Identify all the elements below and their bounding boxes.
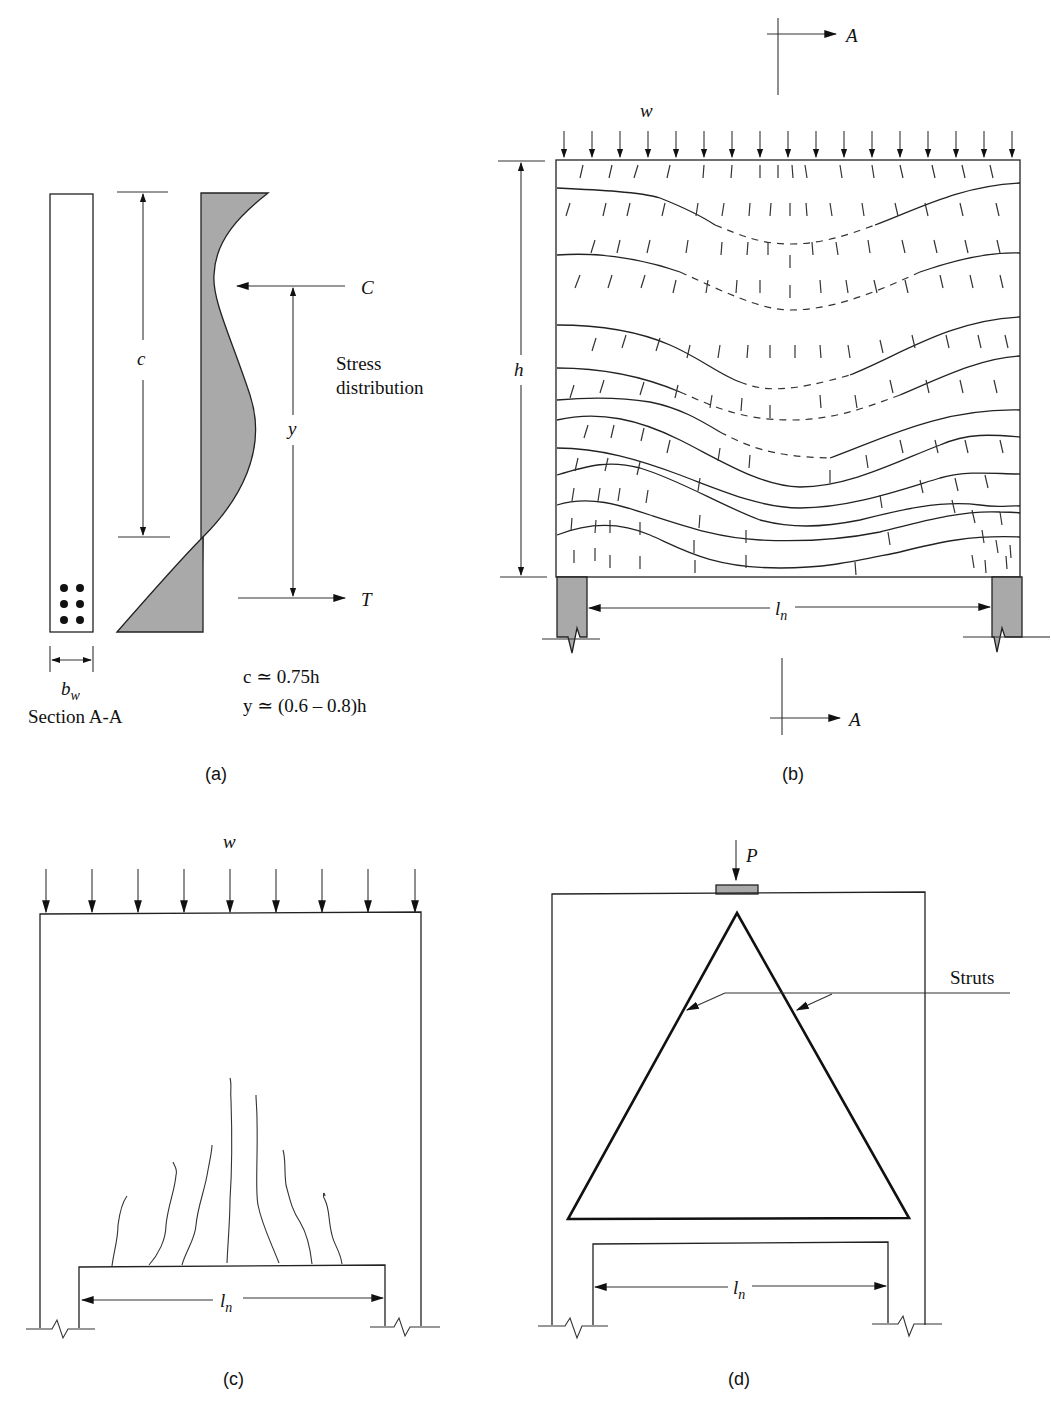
deep-beam-b: [556, 160, 1020, 577]
section-aa-label: Section A-A: [28, 706, 123, 727]
uniform-load-arrows-c: [46, 869, 415, 912]
load-p-label: P: [745, 845, 758, 866]
ln-label-d: ln: [733, 1277, 745, 1302]
stress-label-line1: Stress: [336, 353, 381, 374]
left-support-b: [557, 577, 587, 653]
section-web: [50, 194, 93, 632]
c-label: c: [137, 348, 146, 369]
struts-label: Struts: [950, 967, 994, 988]
deep-beam-figure: bw Section A-A c C T y Stress distributi…: [0, 0, 1051, 1410]
panel-d: P Struts ln (d): [538, 840, 1010, 1389]
tension-trajectories: [566, 165, 1011, 575]
caption-c: (c): [223, 1369, 244, 1389]
flexural-cracks: [112, 1078, 342, 1266]
panel-c: w ln (c: [26, 831, 440, 1389]
uniform-load-arrows-b: [564, 131, 1012, 157]
right-support-b: [992, 577, 1022, 652]
rebar-dots: [60, 584, 84, 624]
section-a-top-label: A: [844, 25, 858, 46]
stress-label-line2: distribution: [336, 377, 424, 398]
h-label: h: [514, 359, 524, 380]
force-t-label: T: [361, 589, 373, 610]
caption-d: (d): [728, 1369, 750, 1389]
bw-label: bw: [61, 678, 81, 703]
deep-beam-d: [552, 892, 925, 1325]
section-a-bottom-label: A: [847, 709, 861, 730]
load-w-label-c: w: [223, 831, 236, 852]
load-w-label-b: w: [640, 100, 653, 121]
y-label: y: [286, 418, 297, 439]
ln-label-c: ln: [220, 1290, 232, 1315]
stress-trajectories: [557, 183, 1020, 568]
force-c-label: C: [361, 277, 374, 298]
panel-b: A w h: [498, 18, 1050, 784]
eq-y: y ≃ (0.6 – 0.8)h: [243, 695, 367, 717]
stress-distribution: [201, 193, 268, 632]
caption-b: (b): [782, 764, 804, 784]
strut-triangle: [568, 913, 909, 1219]
ln-label-b: ln: [775, 598, 787, 623]
eq-c: c ≃ 0.75h: [243, 666, 320, 687]
caption-a: (a): [205, 764, 227, 784]
panel-a: bw Section A-A c C T y Stress distributi…: [28, 192, 424, 784]
